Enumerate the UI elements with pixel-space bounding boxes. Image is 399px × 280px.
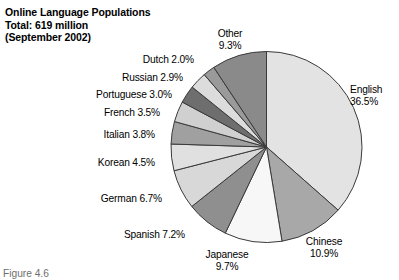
slice-label-spanish-text: Spanish 7.2%: [124, 229, 185, 240]
slice-label-japanese-pct: 9.7%: [193, 261, 261, 273]
slice-label-portuguese: Portuguese 3.0%: [0, 89, 172, 101]
slice-label-portuguese-text: Portuguese 3.0%: [96, 89, 172, 100]
slice-label-english-name: English: [350, 84, 382, 95]
slice-label-other: Other 9.3%: [188, 28, 272, 51]
slice-label-other-name: Other: [218, 28, 243, 39]
slice-label-german-text: German 6.7%: [101, 193, 162, 204]
slice-label-english-pct: 36.5%: [350, 96, 382, 108]
pie-slice-group: [171, 52, 362, 243]
slice-label-russian: Russian 2.9%: [0, 72, 183, 84]
slice-label-italian: Italian 3.8%: [0, 129, 155, 141]
slice-label-italian-text: Italian 3.8%: [104, 129, 155, 140]
slice-label-dutch-text: Dutch 2.0%: [143, 54, 194, 65]
slice-label-german: German 6.7%: [0, 193, 162, 205]
slice-label-korean: Korean 4.5%: [0, 157, 155, 169]
pie-chart-figure: Online Language Populations Total: 619 m…: [0, 0, 399, 280]
slice-label-dutch: Dutch 2.0%: [0, 54, 194, 66]
slice-label-english: English 36.5%: [350, 84, 382, 107]
slice-label-japanese-name: Japanese: [206, 249, 249, 260]
slice-label-japanese: Japanese 9.7%: [193, 249, 261, 272]
slice-label-chinese: Chinese 10.9%: [293, 236, 355, 259]
slice-label-other-pct: 9.3%: [188, 40, 272, 52]
slice-label-russian-text: Russian 2.9%: [122, 72, 183, 83]
slice-label-korean-text: Korean 4.5%: [98, 157, 155, 168]
slice-label-chinese-name: Chinese: [306, 236, 342, 247]
slice-label-french-text: French 3.5%: [104, 107, 160, 118]
slice-label-french: French 3.5%: [0, 107, 160, 119]
figure-caption: Figure 4.6: [3, 268, 49, 279]
slice-label-spanish: Spanish 7.2%: [0, 229, 185, 241]
slice-label-chinese-pct: 10.9%: [293, 248, 355, 260]
